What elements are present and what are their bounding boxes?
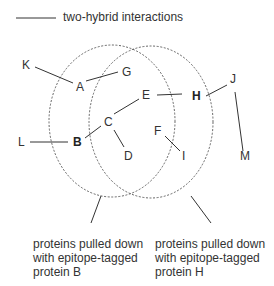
caption-b-line-2: with epitope-tagged bbox=[33, 251, 143, 265]
node-i: I bbox=[182, 150, 185, 162]
edge-f-i bbox=[165, 136, 180, 151]
node-a: A bbox=[76, 81, 84, 93]
caption-b-line-1: proteins pulled down bbox=[33, 237, 143, 251]
edge-c-e bbox=[114, 99, 139, 114]
edge-j-m bbox=[235, 92, 243, 151]
edge-e-h bbox=[157, 94, 182, 95]
caption-h-line-3: protein H bbox=[155, 265, 265, 279]
caption-h-line-1: proteins pulled down bbox=[155, 237, 265, 251]
node-d: D bbox=[124, 150, 133, 162]
edge-h-j bbox=[206, 85, 227, 96]
edge-b-c bbox=[85, 126, 101, 138]
node-j: J bbox=[230, 73, 236, 85]
node-e: E bbox=[142, 89, 150, 101]
node-h: H bbox=[192, 90, 201, 102]
caption-b-leader bbox=[91, 196, 101, 223]
edge-a-g bbox=[86, 72, 118, 81]
edge-c-d bbox=[114, 130, 124, 147]
node-c: C bbox=[104, 116, 113, 128]
caption-b-line-3: protein B bbox=[33, 265, 143, 279]
caption-h-line-2: with epitope-tagged bbox=[155, 251, 265, 265]
legend-label: two-hybrid interactions bbox=[63, 10, 183, 24]
node-k: K bbox=[22, 59, 30, 71]
node-f: F bbox=[154, 125, 161, 137]
caption-set-b: proteins pulled down with epitope-tagged… bbox=[33, 237, 143, 279]
edge-k-a bbox=[35, 67, 73, 83]
node-b: B bbox=[73, 136, 82, 148]
node-l: L bbox=[18, 136, 25, 148]
node-g: G bbox=[122, 66, 131, 78]
caption-h-leader bbox=[191, 196, 211, 223]
node-m: M bbox=[240, 150, 250, 162]
caption-set-h: proteins pulled down with epitope-tagged… bbox=[155, 237, 265, 279]
